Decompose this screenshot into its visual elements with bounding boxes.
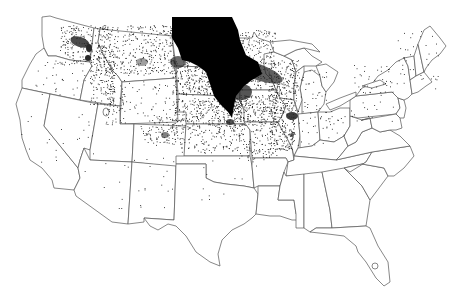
cluster-spokane <box>85 55 91 61</box>
lake-okeechobee <box>372 263 378 269</box>
cluster-denver <box>161 132 169 138</box>
state-kansas <box>184 124 250 156</box>
state-maine <box>418 26 446 72</box>
us-map <box>0 0 457 300</box>
cluster-nebraska-east <box>226 119 234 125</box>
cluster-st-louis <box>290 133 294 137</box>
map-container <box>0 0 457 300</box>
cluster-central-montana <box>136 58 148 66</box>
cluster-chicago <box>286 112 298 120</box>
state-new-mexico <box>128 162 176 224</box>
state-florida <box>310 226 390 286</box>
state-wyoming <box>120 78 178 124</box>
cluster-northern-idaho <box>86 44 92 52</box>
